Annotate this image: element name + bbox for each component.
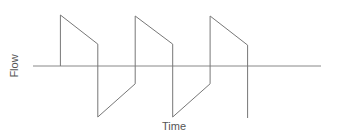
x-axis-label: Time bbox=[162, 120, 186, 132]
y-axis-label: Flow bbox=[8, 54, 20, 77]
flow-time-chart bbox=[0, 0, 337, 140]
